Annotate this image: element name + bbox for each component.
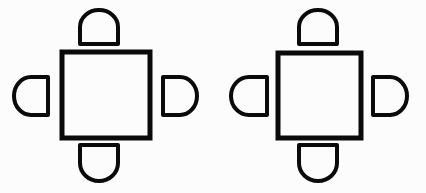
group-right-chair-top-icon: Top seat bbox=[299, 10, 337, 44]
group-right-chair-bottom-icon: Bottom seat bbox=[299, 145, 337, 181]
group-left-chair-bottom-icon: Bottom seat bbox=[80, 145, 118, 181]
diagram-canvas: Top seatLeft seatRight seatBottom seatTo… bbox=[0, 0, 426, 193]
seating-arrangement-diagram: Top seatLeft seatRight seatBottom seatTo… bbox=[0, 0, 426, 193]
group-left-chair-right-icon: Right seat bbox=[163, 77, 197, 115]
group-right-chair-right-icon: Right seat bbox=[373, 77, 407, 115]
seating-group-group-right: Top seatLeft seatRight seatBottom seat bbox=[231, 10, 407, 181]
seating-group-group-left: Top seatLeft seatRight seatBottom seat bbox=[14, 10, 197, 181]
group-left-chair-left-icon: Left seat bbox=[14, 77, 48, 115]
group-right-square-table bbox=[278, 53, 361, 138]
group-left-square-table bbox=[62, 52, 150, 138]
group-left-chair-top-icon: Top seat bbox=[80, 10, 118, 44]
group-right-chair-left-icon: Left seat bbox=[231, 77, 267, 115]
